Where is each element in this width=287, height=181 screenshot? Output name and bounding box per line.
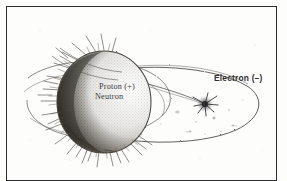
label-proton: Proton (+) (99, 82, 135, 91)
orbit-speckle-crosses (176, 110, 235, 133)
electron-leader-line (148, 84, 203, 104)
electron-particle (193, 93, 218, 116)
atom-illustration (0, 0, 287, 181)
atom-figure: Proton (+) Neutron Electron (–) (0, 0, 287, 181)
label-neutron: Neutron (95, 92, 123, 101)
label-electron: Electron (–) (214, 73, 262, 83)
